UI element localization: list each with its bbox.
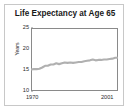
- y-axis-ticks: 25 20 15 10: [14, 28, 29, 91]
- chart-title: Life Expectancy at Age 65: [0, 9, 130, 18]
- y-tick-label-10: 10: [23, 88, 29, 94]
- y-tick-label-15: 15: [23, 67, 29, 73]
- chart-figure: Life Expectancy at Age 65 Years 25 20 15…: [0, 0, 130, 111]
- y-tick-label-20: 20: [23, 46, 29, 52]
- series-line-life-expectancy: [31, 28, 118, 91]
- series-polyline: [31, 58, 118, 70]
- x-tick-label-start: 1970: [26, 95, 38, 101]
- x-tick-label-end: 2001: [101, 95, 113, 101]
- y-tick-label-25: 25: [23, 25, 29, 31]
